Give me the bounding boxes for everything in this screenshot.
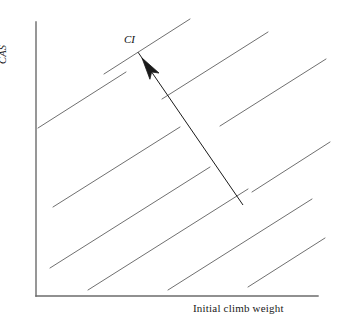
ci-line (248, 238, 325, 287)
ci-line (88, 189, 248, 290)
ci-arrow-head (142, 58, 159, 79)
chart-plot-area (0, 0, 338, 321)
ci-line (168, 199, 312, 290)
ci-line (53, 127, 180, 207)
ci-line (162, 32, 268, 99)
ci-line (252, 142, 330, 192)
axis-lines (36, 22, 318, 296)
ci-direction-arrow (138, 52, 243, 205)
chart-figure: Initial climb weight CAS CI (0, 0, 338, 321)
ci-line (220, 59, 326, 126)
ci-line (50, 167, 210, 268)
ci-line-family (38, 19, 330, 290)
ci-arrow-shaft (138, 52, 243, 205)
ci-line (38, 72, 126, 128)
ci-annotation-label: CI (124, 33, 135, 45)
y-axis-title: CAS (0, 50, 8, 64)
x-axis-title: Initial climb weight (193, 302, 284, 314)
